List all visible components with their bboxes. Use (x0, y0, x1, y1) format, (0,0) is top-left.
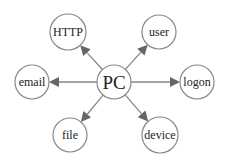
edge-pc-user (125, 52, 141, 69)
node-pc: PC (97, 65, 131, 99)
diagram-canvas: PCHTTPuseremaillogonfiledevice (0, 0, 226, 161)
hub-diagram: PCHTTPuseremaillogonfiledevice (0, 0, 226, 161)
node-file: file (53, 118, 87, 152)
node-label: email (19, 75, 46, 89)
node-label: logon (183, 75, 210, 89)
arrowhead-icon (81, 111, 91, 122)
node-label: user (149, 25, 169, 39)
node-device: device (142, 117, 178, 153)
edge-pc-file (87, 95, 103, 114)
node-label: HTTP (53, 25, 83, 39)
node-label: file (62, 128, 78, 142)
node-label: PC (102, 72, 125, 93)
edge-pc-device (125, 95, 142, 114)
arrowhead-icon (170, 77, 180, 87)
arrowhead-icon (49, 77, 59, 87)
nodes: PCHTTPuseremaillogonfiledevice (15, 14, 214, 153)
node-label: device (144, 128, 175, 142)
node-user: user (142, 15, 176, 49)
edge-pc-http (87, 53, 103, 70)
node-email: email (15, 65, 49, 99)
node-logon: logon (180, 65, 214, 99)
node-http: HTTP (50, 14, 86, 50)
